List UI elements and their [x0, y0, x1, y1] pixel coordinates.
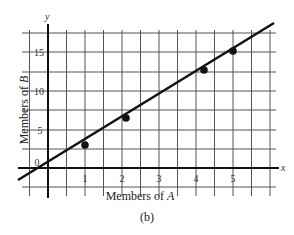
x-tick-label: 4: [194, 173, 199, 184]
y-tick-label: 15: [34, 47, 44, 58]
data-point: [229, 47, 237, 55]
grid-lines: [22, 30, 276, 196]
data-point: [122, 114, 130, 122]
x-tick-label: 1: [83, 173, 88, 184]
chart: y x 0 5 10 15 1 2 3 4 5 Members of A Mem…: [0, 0, 294, 235]
x-axis-title: Members of A: [106, 189, 175, 203]
data-point: [200, 66, 208, 74]
x-axis-variable: x: [280, 162, 286, 173]
data-line: [18, 23, 274, 180]
x-tick-label: 2: [120, 173, 125, 184]
x-tick-label: 3: [157, 173, 162, 184]
y-axis-title: Members of B: [17, 75, 31, 144]
y-tick-label: 5: [38, 125, 43, 136]
figure-caption: (b): [140, 210, 154, 224]
y-tick-label: 10: [34, 86, 44, 97]
y-axis-variable: y: [44, 11, 50, 22]
data-point: [81, 141, 89, 149]
x-tick-label: 5: [231, 173, 236, 184]
